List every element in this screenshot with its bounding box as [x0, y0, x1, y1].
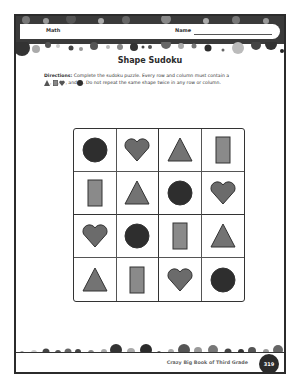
rectangle-icon: [208, 135, 238, 165]
grid-cell: [74, 129, 117, 172]
footer-bar: Crazy Big Book of Third Grade 319: [16, 352, 284, 373]
grid-cell: [117, 129, 160, 172]
grid-cell: [117, 215, 160, 258]
book-title: Crazy Big Book of Third Grade: [167, 360, 248, 365]
directions-and: , and: [65, 80, 77, 85]
directions-label: Directions:: [44, 73, 72, 78]
worksheet-page: Math Name Shape Sudoku Directions: Compl…: [14, 14, 286, 374]
heart-icon: [122, 135, 152, 165]
rectangle-icon: [122, 265, 152, 295]
header-bar: Math Name: [20, 24, 280, 39]
sudoku-grid: [73, 128, 245, 302]
grid-cell: [159, 129, 202, 172]
grid-cell: [202, 172, 245, 215]
directions: Directions: Complete the sudoku puzzle. …: [44, 73, 264, 86]
grid-cell: [117, 172, 160, 215]
circle-icon: [165, 178, 195, 208]
grid-cell: [74, 172, 117, 215]
grid-cell: [74, 215, 117, 258]
triangle-icon: [122, 178, 152, 208]
name-label: Name: [175, 27, 191, 33]
rectangle-icon: [80, 178, 110, 208]
name-field-line[interactable]: [194, 34, 272, 35]
rectangle-icon: [53, 80, 58, 86]
grid-cell: [159, 258, 202, 301]
worksheet-title: Shape Sudoku: [16, 56, 284, 65]
circle-icon: [208, 265, 238, 295]
heart-icon: [165, 265, 195, 295]
circle-icon: [122, 221, 152, 251]
triangle-icon: [44, 80, 50, 86]
directions-rule: . Do not repeat the same shape twice in …: [83, 80, 221, 85]
page-number: 319: [259, 354, 279, 374]
grid-cell: [159, 215, 202, 258]
circle-icon: [80, 135, 110, 165]
directions-text: Complete the sudoku puzzle. Every row an…: [74, 73, 229, 78]
grid-cell: [202, 215, 245, 258]
grid-cell: [74, 258, 117, 301]
triangle-icon: [208, 221, 238, 251]
grid-cell: [202, 129, 245, 172]
triangle-icon: [165, 135, 195, 165]
rectangle-icon: [165, 221, 195, 251]
heart-icon: [208, 178, 238, 208]
subject-label: Math: [46, 27, 60, 33]
grid-cell: [159, 172, 202, 215]
grid-cell: [117, 258, 160, 301]
heart-icon: [80, 221, 110, 251]
grid-cell: [202, 258, 245, 301]
triangle-icon: [80, 265, 110, 295]
